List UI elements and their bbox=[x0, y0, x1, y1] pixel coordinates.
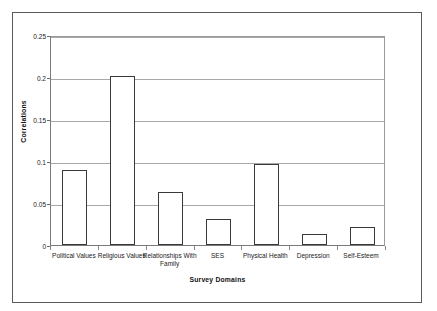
x-axis-tick-mark bbox=[146, 246, 147, 250]
plot-area bbox=[50, 36, 385, 246]
x-axis-tick-label: Religious Values bbox=[95, 252, 149, 260]
bar bbox=[350, 227, 375, 245]
y-axis-tick-label: 0.05 bbox=[33, 201, 46, 208]
y-axis-tick-label: 0.1 bbox=[37, 159, 46, 166]
y-axis-tick-label: 0.15 bbox=[33, 117, 46, 124]
bar bbox=[158, 192, 183, 245]
x-axis-tick-mark bbox=[289, 246, 290, 250]
x-axis-tick-mark bbox=[98, 246, 99, 250]
chart-figure: Correlations 00.050.10.150.20.25 Politic… bbox=[0, 0, 437, 311]
y-axis-tick-label: 0 bbox=[42, 243, 46, 250]
x-axis-tick-label: Physical Health bbox=[238, 252, 292, 260]
gridline bbox=[51, 121, 384, 122]
x-axis-tick-label: Relationships With Family bbox=[143, 252, 197, 268]
x-axis-tick-label: SES bbox=[191, 252, 245, 260]
gridline bbox=[51, 79, 384, 80]
x-axis-tick-labels: Political ValuesReligious ValuesRelation… bbox=[50, 252, 385, 278]
gridline bbox=[51, 37, 384, 38]
x-axis-tick-mark bbox=[50, 246, 51, 250]
y-axis-tick-label: 0.25 bbox=[33, 33, 46, 40]
bar bbox=[206, 219, 231, 245]
x-axis-tick-marks bbox=[50, 246, 385, 251]
gridline bbox=[51, 205, 384, 206]
y-axis-tick-labels: 00.050.10.150.20.25 bbox=[14, 36, 46, 246]
x-axis-tick-mark bbox=[337, 246, 338, 250]
x-axis-tick-label: Self-Esteem bbox=[334, 252, 388, 260]
x-axis-tick-mark bbox=[385, 246, 386, 250]
bar bbox=[302, 234, 327, 245]
x-axis-tick-mark bbox=[241, 246, 242, 250]
x-axis-tick-mark bbox=[194, 246, 195, 250]
gridline bbox=[51, 163, 384, 164]
bar bbox=[254, 164, 279, 245]
x-axis-tick-label: Political Values bbox=[47, 252, 101, 260]
x-axis-tick-label: Depression bbox=[286, 252, 340, 260]
x-axis-title: Survey Domains bbox=[50, 276, 385, 283]
bar bbox=[62, 170, 87, 245]
bar bbox=[110, 76, 135, 245]
y-axis-tick-label: 0.2 bbox=[37, 75, 46, 82]
